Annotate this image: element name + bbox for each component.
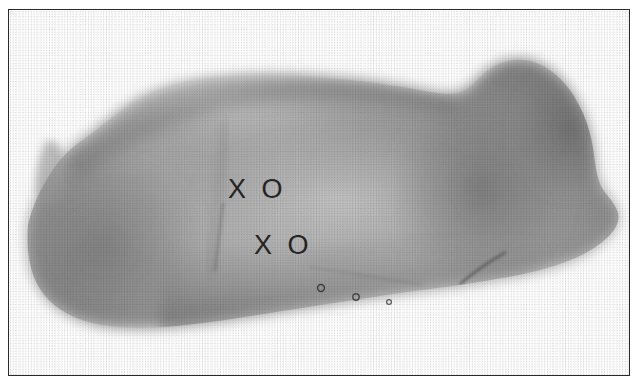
pig-illustration bbox=[10, 11, 629, 375]
photograph-canvas bbox=[10, 11, 629, 375]
xo-annotation-lower: X O bbox=[254, 232, 313, 259]
xo-annotation-upper: X O bbox=[228, 176, 287, 203]
figure-root: X O X O bbox=[0, 0, 639, 386]
